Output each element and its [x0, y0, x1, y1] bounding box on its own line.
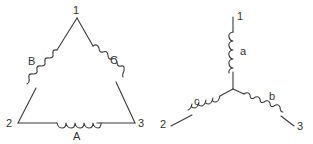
winding-C	[77, 18, 135, 123]
wye-winding-a-label: a	[240, 45, 247, 57]
delta-winding-B-label: B	[28, 55, 35, 67]
winding-a	[229, 17, 233, 89]
winding-b	[233, 89, 294, 126]
delta-winding-C-label: C	[110, 54, 118, 66]
delta-winding-A-label: A	[73, 130, 81, 142]
wye-terminal-1-label: 1	[237, 10, 243, 22]
delta-wye-windings-diagram: 1 2 3 A B C 1 2 3 a b c	[0, 0, 313, 144]
delta-node-2-label: 2	[6, 117, 12, 129]
wye-winding-c-label: c	[194, 95, 200, 107]
delta-node-1-label: 1	[73, 4, 79, 16]
winding-B	[18, 18, 77, 123]
winding-A	[18, 123, 135, 128]
delta-connection: 1 2 3 A B C	[6, 4, 144, 142]
wye-connection: 1 2 3 a b c	[160, 10, 303, 132]
wye-winding-b-label: b	[269, 90, 275, 102]
winding-c	[171, 89, 233, 126]
wye-terminal-2-label: 2	[160, 118, 166, 130]
wye-terminal-3-label: 3	[297, 120, 303, 132]
delta-node-3-label: 3	[138, 117, 144, 129]
